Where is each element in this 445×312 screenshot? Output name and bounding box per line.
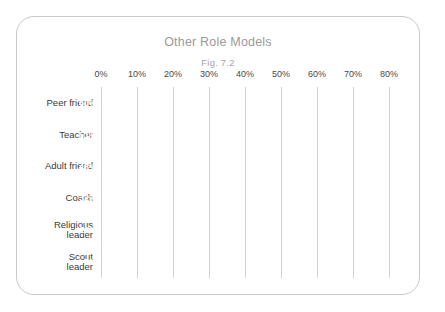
gridline <box>245 87 246 278</box>
chart-subtitle: Fig. 7.2 <box>17 57 419 68</box>
gridline <box>317 87 318 278</box>
gridline <box>389 87 390 278</box>
x-tick-label: 40% <box>236 69 254 79</box>
x-tick-label: 0% <box>94 69 107 79</box>
bar-value-label: 7% <box>84 257 97 267</box>
x-tick-label: 20% <box>164 69 182 79</box>
bar-row: 48% <box>101 157 274 176</box>
gridline <box>281 87 282 278</box>
bar-row: 32% <box>101 189 216 208</box>
bar-value-label: 19% <box>79 225 97 235</box>
bar-value-label: 32% <box>79 193 97 203</box>
bar-row: 51% <box>101 125 285 144</box>
x-axis-tick-labels: 0%10%20%30%40%50%60%70%80% <box>101 69 389 83</box>
gridline <box>173 87 174 278</box>
bar-row: 60% <box>101 93 317 112</box>
x-tick-label: 30% <box>200 69 218 79</box>
gridline <box>101 87 102 278</box>
x-tick-label: 70% <box>344 69 362 79</box>
figure-card: Other Role Models Fig. 7.2 0%10%20%30%40… <box>16 16 420 295</box>
bar-value-label: 60% <box>79 98 97 108</box>
bar-row: 7% <box>101 253 126 272</box>
bar-row: 19% <box>101 221 169 240</box>
x-tick-label: 50% <box>272 69 290 79</box>
bar-value-label: 48% <box>79 162 97 172</box>
plot-area: 60%51%48%32%19%7% <box>101 87 389 278</box>
gridline <box>353 87 354 278</box>
gridline <box>209 87 210 278</box>
bar-value-label: 51% <box>79 130 97 140</box>
x-tick-label: 60% <box>308 69 326 79</box>
x-tick-label: 10% <box>128 69 146 79</box>
chart-title: Other Role Models <box>17 35 419 49</box>
gridline <box>137 87 138 278</box>
x-tick-label: 80% <box>380 69 398 79</box>
gridlines <box>101 87 389 278</box>
y-axis-category-labels: Peer friendTeacherAdult friendCoachRelig… <box>17 87 97 278</box>
